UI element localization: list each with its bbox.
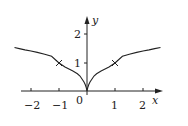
x-axis-arrow-icon <box>155 89 163 94</box>
y-tick-label: 1 <box>74 57 81 70</box>
marker-x-icon <box>112 60 118 66</box>
marker-x-icon <box>56 60 62 66</box>
origin-label: 0 <box>76 94 83 107</box>
y-axis-arrow-icon <box>85 16 90 24</box>
x-tick-label: 1 <box>111 99 118 112</box>
y-tick-label: 2 <box>74 28 81 41</box>
y-axis-label: y <box>91 14 99 27</box>
x-axis-label: x <box>152 94 159 107</box>
x-tick-label: −1 <box>52 99 68 112</box>
x-tick-label: −2 <box>24 99 40 112</box>
plot: −2 −1 1 2 0 1 2 x y <box>0 0 188 126</box>
x-tick-label: 2 <box>139 99 146 112</box>
